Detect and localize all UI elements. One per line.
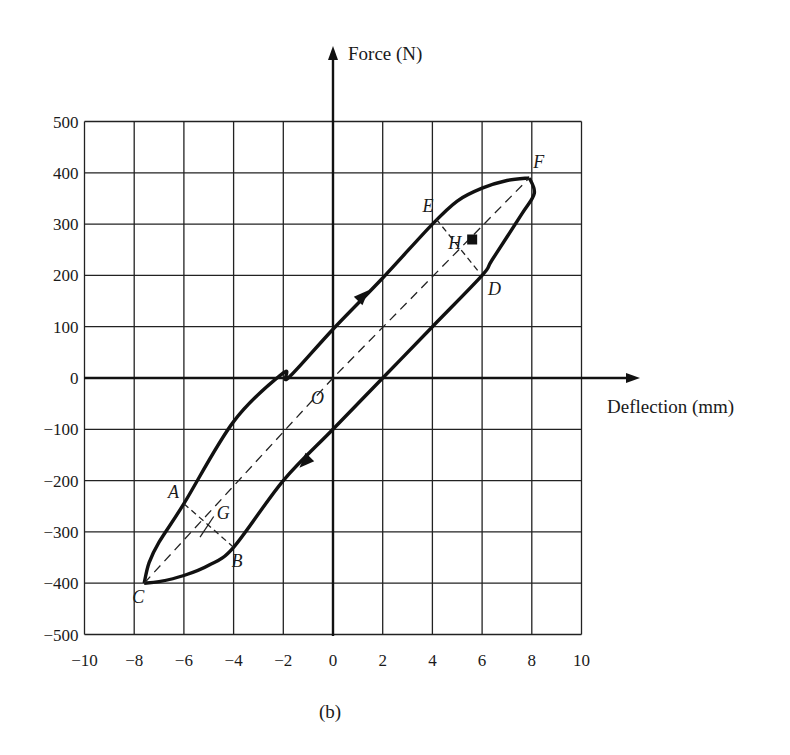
point-label-H: H	[447, 233, 462, 253]
y-axis-label: Force (N)	[348, 43, 422, 65]
x-tick-label: 2	[378, 651, 387, 670]
x-tick-label: 8	[528, 651, 537, 670]
point-label-A: A	[167, 482, 180, 502]
y-tick-label: −400	[43, 574, 78, 593]
x-tick-label: −2	[274, 651, 292, 670]
y-tick-label: −500	[43, 626, 78, 645]
point-label-B: B	[232, 551, 243, 571]
point-label-E: E	[421, 196, 433, 216]
point-H-marker	[467, 234, 477, 244]
axes	[84, 46, 640, 636]
y-tick-label: −100	[43, 420, 78, 439]
hysteresis-chart: −10−8−6−4−202468105004003002001000−100−2…	[0, 0, 790, 755]
y-tick-label: 300	[53, 215, 79, 234]
y-tick-label: 0	[70, 369, 79, 388]
figure-caption: (b)	[319, 701, 341, 723]
point-label-F: F	[532, 152, 545, 172]
x-tick-label: 0	[329, 651, 338, 670]
y-tick-label: 200	[53, 266, 79, 285]
annotations: OABCDEFGH	[132, 152, 545, 607]
y-tick-label: −200	[43, 472, 78, 491]
point-label-D: D	[487, 279, 501, 299]
x-tick-label: 4	[428, 651, 437, 670]
x-tick-label: 6	[478, 651, 487, 670]
x-tick-label: −10	[71, 651, 98, 670]
y-tick-label: 100	[53, 318, 79, 337]
x-axis-arrow-icon	[626, 373, 640, 383]
x-axis-label: Deflection (mm)	[607, 396, 734, 418]
point-label-O: O	[311, 388, 324, 408]
y-tick-label: 500	[53, 113, 79, 132]
y-tick-label: −300	[43, 523, 78, 542]
point-label-C: C	[132, 587, 145, 607]
x-tick-label: −8	[125, 651, 143, 670]
y-tick-label: 400	[53, 164, 79, 183]
point-label-G: G	[217, 503, 230, 523]
x-tick-label: −6	[175, 651, 193, 670]
y-axis-arrow-icon	[328, 46, 338, 60]
x-tick-label: −4	[225, 651, 244, 670]
x-tick-label: 10	[573, 651, 590, 670]
